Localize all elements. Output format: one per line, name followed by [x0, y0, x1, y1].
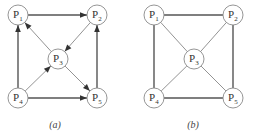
diagram-a-directed-graph: P1P2P3P4P5 (a)	[8, 5, 107, 131]
node-p4: P4	[8, 88, 28, 108]
node-p2: P2	[87, 5, 107, 25]
diagram-b-undirected-graph: P1P2P3P4P5 (b)	[144, 5, 243, 131]
edge-p5-p3	[201, 66, 226, 91]
node-p3: P3	[48, 49, 68, 69]
edge-p2-p3	[201, 22, 227, 51]
edge-p4-p3	[161, 66, 187, 91]
node-p4: P4	[144, 88, 164, 108]
node-p1: P1	[8, 5, 28, 25]
edge-p2-p3-arrow	[65, 22, 91, 51]
node-p2: P2	[223, 5, 243, 25]
node-p1: P1	[144, 5, 164, 25]
edge-p1-p3	[161, 22, 188, 51]
edge-p3-p5-arrow	[65, 66, 90, 91]
edge-p3-p1-arrow	[25, 22, 52, 51]
diagram-a-nodes: P1P2P3P4P5	[8, 5, 107, 108]
node-p3: P3	[184, 49, 204, 69]
edge-p4-p3-arrow	[25, 66, 51, 91]
caption-b: (b)	[187, 119, 199, 131]
node-p5: P5	[223, 88, 243, 108]
node-p5: P5	[87, 88, 107, 108]
diagram-canvas: P1P2P3P4P5 (a) P1P2P3P4P5 (b)	[0, 0, 273, 140]
diagram-b-nodes: P1P2P3P4P5	[144, 5, 243, 108]
caption-a: (a)	[49, 119, 61, 131]
